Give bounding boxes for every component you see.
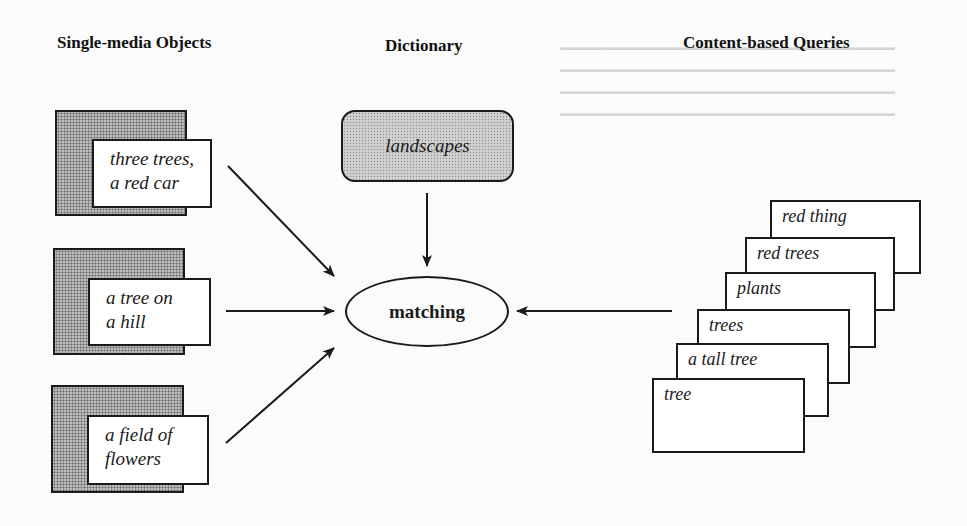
connector-arrows — [0, 0, 967, 526]
matching-label: matching — [389, 301, 465, 323]
matching-process-node: matching — [345, 276, 509, 347]
arrow-smo1-to-matching — [228, 166, 334, 276]
arrow-smo3-to-matching — [226, 348, 334, 443]
